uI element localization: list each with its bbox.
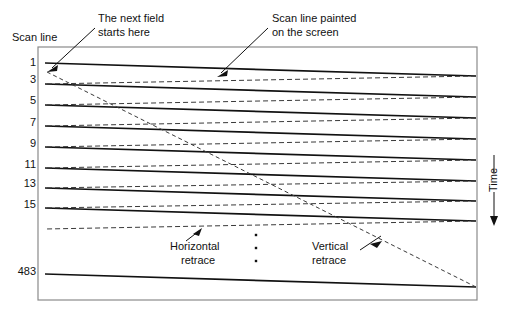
horizontal-retrace-6 [45,181,476,188]
scan-line-number-15: 15 [24,198,36,210]
scan-line-number-7: 7 [30,116,36,128]
scan-line-483 [45,274,476,287]
horizontal-retrace-8 [45,221,476,229]
scanline-diagram: 13579111315483 Scan line The next field … [0,0,517,320]
vertical-retrace-label-line2: retrace [312,254,346,266]
ellipsis-dots-group [255,234,257,262]
scan-line-1 [45,63,476,76]
scan-line-9 [45,147,476,160]
time-axis-arrowhead [490,216,498,226]
scan-line-number-11: 11 [25,158,36,170]
scan-line-3 [45,84,476,97]
scan-line-painted-leader-line [221,28,268,73]
vertical-retrace-label-line1: Vertical [312,240,348,252]
scan-line-15 [45,208,476,221]
horizontal-retrace-5 [45,160,476,168]
scan-line-painted-label-line1: Scan line painted [272,12,356,24]
next-field-leader-line [52,28,95,68]
scan-line-number-1: 1 [30,56,36,68]
scan-line-number-483: 483 [18,265,36,277]
scan-lines-group [45,63,476,287]
scan-line-13 [45,188,476,201]
scan-line-number-labels: 13579111315483 [18,56,36,277]
time-axis-label: Time [487,168,499,192]
scan-line-axis-label: Scan line [12,31,57,43]
figure-container: 13579111315483 Scan line The next field … [0,0,517,320]
next-field-label-line1: The next field [98,12,164,24]
scan-line-number-5: 5 [30,94,36,106]
next-field-label-line2: starts here [98,26,150,38]
scan-line-7 [45,126,476,139]
scan-line-painted-label-line2: on the screen [272,26,339,38]
horizontal-retrace-1 [45,76,476,84]
scan-line-number-3: 3 [30,73,36,85]
scan-line-number-13: 13 [24,177,36,189]
horizontal-retrace-4 [45,139,476,147]
horizontal-retrace-group [45,76,476,229]
scan-line-5 [45,105,476,118]
ellipsis-dot-2 [255,247,257,249]
next-field-arrowhead [47,65,58,72]
horizontal-retrace-label-line2: retrace [181,254,215,266]
horizontal-retrace-3 [45,118,476,126]
horizontal-retrace-label-line1: Horizontal [170,240,220,252]
scan-line-number-9: 9 [30,137,36,149]
ellipsis-dot-1 [255,234,257,236]
ellipsis-dot-3 [255,260,257,262]
horizontal-retrace-7 [45,201,476,208]
